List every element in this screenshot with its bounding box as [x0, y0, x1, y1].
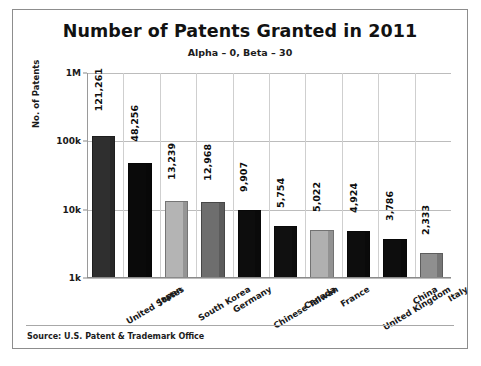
bar-slot: 9,907: [233, 73, 269, 278]
x-axis-line: [87, 277, 451, 278]
y-axis-tick-label: 1M: [66, 68, 81, 78]
y-axis-tick-mark: [83, 209, 87, 210]
chart-frame: Number of Patents Granted in 2011 Alpha …: [12, 9, 468, 349]
bar-side-face: [292, 227, 297, 277]
plot-area: 121,26148,25613,23912,9689,9075,7545,022…: [87, 73, 451, 278]
bar-value-label: 12,968: [202, 144, 213, 181]
bar-side-face: [365, 232, 370, 277]
bar[interactable]: 9,907: [238, 210, 261, 278]
y-axis-tick-mark: [83, 141, 87, 142]
x-axis-category-label: France: [338, 284, 371, 309]
bar-side-face: [401, 240, 406, 278]
y-axis-tick-label: 100k: [56, 136, 81, 146]
bar[interactable]: 48,256: [128, 163, 151, 278]
bar-slot: 5,022: [305, 73, 341, 278]
y-axis-tick-mark: [83, 73, 87, 74]
x-axis-category-label: Canada: [302, 284, 338, 311]
chart-subtitle: Alpha – 0, Beta – 30: [13, 47, 467, 58]
bar[interactable]: 5,754: [274, 226, 297, 278]
bar-slot: 5,754: [269, 73, 305, 278]
bar[interactable]: 3,786: [383, 239, 406, 279]
bar[interactable]: 4,924: [347, 231, 370, 278]
bar-value-label: 5,022: [311, 182, 322, 212]
gridline-horizontal: [87, 278, 451, 279]
bar[interactable]: 121,261: [92, 136, 115, 278]
bar-slot: 121,261: [87, 73, 123, 278]
source-divider: [26, 325, 454, 326]
x-axis-category-label: Japan: [156, 284, 184, 306]
bar-side-face: [328, 231, 333, 277]
bar[interactable]: 12,968: [201, 202, 224, 278]
bar-value-label: 13,239: [166, 143, 177, 180]
y-axis-tick-mark: [83, 278, 87, 279]
bar[interactable]: 2,333: [420, 253, 443, 278]
bar-side-face: [146, 164, 151, 277]
bar-value-label: 5,754: [275, 178, 286, 208]
bar[interactable]: 5,022: [310, 230, 333, 278]
bar-value-label: 3,786: [384, 190, 395, 220]
bar-side-face: [110, 137, 115, 277]
bar-side-face: [183, 202, 188, 277]
bar-value-label: 121,261: [93, 68, 104, 111]
bar-side-face: [219, 203, 224, 277]
bar-slot: 3,786: [378, 73, 414, 278]
source-note: Source: U.S. Patent & Trademark Office: [27, 332, 204, 341]
y-axis-tick-label: 1k: [69, 273, 81, 283]
bar-value-label: 9,907: [238, 162, 249, 192]
bar-value-label: 2,333: [420, 205, 431, 235]
y-axis-tick-label: 10k: [62, 205, 81, 215]
bar[interactable]: 13,239: [165, 201, 188, 278]
bar-side-face: [255, 211, 260, 277]
bar-slot: 13,239: [160, 73, 196, 278]
bar-slot: 12,968: [196, 73, 232, 278]
y-axis-line: [87, 73, 88, 278]
bar-slot: 2,333: [415, 73, 451, 278]
bar-slot: 48,256: [123, 73, 159, 278]
chart-title: Number of Patents Granted in 2011: [13, 21, 467, 41]
x-axis-category-label: Italy: [446, 284, 470, 304]
bar-slot: 4,924: [342, 73, 378, 278]
y-axis-title: No. of Patents: [31, 60, 41, 128]
bar-value-label: 4,924: [348, 183, 359, 213]
bar-side-face: [437, 254, 442, 277]
bar-value-label: 48,256: [129, 105, 140, 142]
